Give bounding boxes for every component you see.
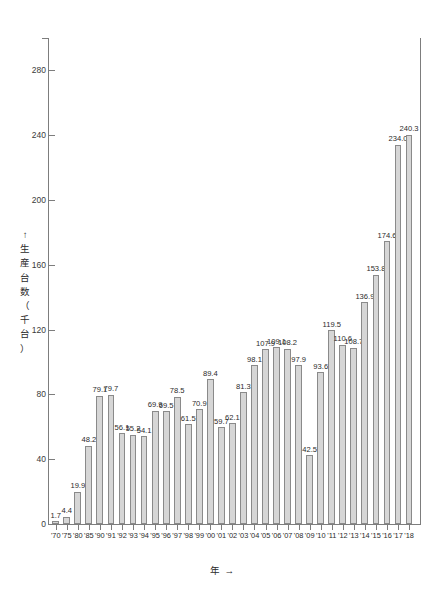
y-axis-title-char: 台 bbox=[18, 327, 32, 341]
x-tick bbox=[299, 525, 300, 530]
bar bbox=[306, 455, 313, 524]
y-axis-title-char: 生 bbox=[18, 242, 32, 256]
x-tick bbox=[277, 525, 278, 530]
bar bbox=[262, 349, 269, 524]
x-tick bbox=[387, 525, 388, 530]
bar-value-label: 78.5 bbox=[166, 387, 188, 395]
bar bbox=[317, 372, 324, 524]
bar-value-label: 240.3 bbox=[398, 125, 420, 133]
bar bbox=[119, 433, 126, 524]
bar-value-label: 108.2 bbox=[277, 339, 299, 347]
bar bbox=[96, 396, 103, 524]
y-tick-label: 200 bbox=[14, 196, 46, 204]
right-frame-line bbox=[420, 38, 421, 524]
bar bbox=[196, 409, 203, 524]
y-tick-label: 240 bbox=[14, 131, 46, 139]
bar bbox=[284, 349, 291, 524]
bar bbox=[85, 446, 92, 524]
x-tick bbox=[266, 525, 267, 530]
x-tick bbox=[111, 525, 112, 530]
x-tick bbox=[254, 525, 255, 530]
y-axis-title-char: （ bbox=[18, 299, 32, 313]
x-tick bbox=[133, 525, 134, 530]
bar bbox=[74, 492, 81, 524]
y-tick-label: 0 bbox=[14, 520, 46, 528]
bar bbox=[141, 436, 148, 524]
x-tick bbox=[409, 525, 410, 530]
bar bbox=[384, 241, 391, 524]
x-tick bbox=[376, 525, 377, 530]
bar-value-label: 97.9 bbox=[288, 356, 310, 364]
bar-value-label: 79.7 bbox=[100, 385, 122, 393]
x-tick bbox=[89, 525, 90, 530]
bar bbox=[229, 423, 236, 524]
x-tick bbox=[210, 525, 211, 530]
x-tick bbox=[122, 525, 123, 530]
bar-value-label: 119.5 bbox=[321, 321, 343, 329]
y-axis-title: ↑生産台数（千台） bbox=[18, 228, 32, 356]
x-tick bbox=[177, 525, 178, 530]
y-axis-title-char: 台 bbox=[18, 271, 32, 285]
bar bbox=[130, 435, 137, 524]
y-axis-title-char: ） bbox=[18, 342, 32, 356]
x-tick bbox=[100, 525, 101, 530]
x-tick bbox=[221, 525, 222, 530]
bar bbox=[185, 424, 192, 524]
bar bbox=[350, 348, 357, 524]
x-tick bbox=[365, 525, 366, 530]
plot-area: 1.74.419.948.279.179.756.155.254.169.969… bbox=[49, 38, 420, 524]
bar bbox=[339, 345, 346, 524]
x-tick bbox=[188, 525, 189, 530]
bar bbox=[52, 521, 59, 524]
x-tick bbox=[343, 525, 344, 530]
bar bbox=[207, 379, 214, 524]
x-tick bbox=[398, 525, 399, 530]
x-tick bbox=[354, 525, 355, 530]
bar bbox=[240, 392, 247, 524]
x-tick bbox=[166, 525, 167, 530]
x-tick bbox=[155, 525, 156, 530]
y-axis-title-char: 千 bbox=[18, 313, 32, 327]
x-axis-title: 年 → bbox=[0, 563, 445, 577]
y-axis-top-cap bbox=[42, 38, 49, 39]
bar bbox=[273, 347, 280, 524]
x-tick bbox=[332, 525, 333, 530]
y-axis-title-char: 産 bbox=[18, 256, 32, 270]
y-axis-title-char: 数 bbox=[18, 285, 32, 299]
y-tick-label: 280 bbox=[14, 66, 46, 74]
x-tick bbox=[144, 525, 145, 530]
bar bbox=[373, 275, 380, 524]
x-tick bbox=[310, 525, 311, 530]
x-tick bbox=[243, 525, 244, 530]
y-tick-label: 80 bbox=[14, 390, 46, 398]
x-tick bbox=[232, 525, 233, 530]
x-tick bbox=[78, 525, 79, 530]
bar bbox=[63, 517, 70, 524]
bar bbox=[108, 395, 115, 524]
y-axis-title-char: ↑ bbox=[18, 228, 32, 242]
bar bbox=[406, 135, 413, 524]
x-tick bbox=[199, 525, 200, 530]
bar bbox=[152, 411, 159, 524]
chart-canvas: 04080120160200240280 ↑生産台数（千台） 1.74.419.… bbox=[0, 0, 445, 603]
x-tick-label: '18 bbox=[400, 532, 418, 540]
bar-value-label: 89.4 bbox=[199, 370, 221, 378]
x-tick bbox=[288, 525, 289, 530]
bar bbox=[251, 365, 258, 524]
bar bbox=[328, 330, 335, 524]
bar bbox=[218, 427, 225, 524]
bar bbox=[395, 145, 402, 524]
x-tick bbox=[56, 525, 57, 530]
bar bbox=[361, 302, 368, 524]
x-tick bbox=[67, 525, 68, 530]
bar bbox=[163, 411, 170, 524]
y-tick-label: 40 bbox=[14, 455, 46, 463]
y-tick bbox=[49, 524, 55, 525]
x-tick bbox=[321, 525, 322, 530]
